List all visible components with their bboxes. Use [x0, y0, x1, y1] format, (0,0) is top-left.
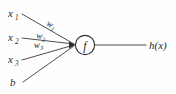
- input-label-x2-subscript: 2: [15, 38, 19, 46]
- input-label-x1: x 1: [7, 7, 19, 22]
- weight-label-w2-subscript: 2: [42, 36, 46, 42]
- neuron-diagram-canvas: f x 1 x 2 x 3 b w 1 w 2 w 3 h(: [0, 0, 176, 94]
- input-label-x1-base: x: [7, 7, 13, 19]
- input-label-bias: b: [10, 76, 16, 88]
- output-label: h(x): [149, 39, 167, 52]
- input-label-x3-subscript: 3: [14, 60, 19, 68]
- edge-x2-to-neuron: [22, 38, 74, 44]
- input-label-x1-subscript: 1: [15, 14, 19, 22]
- edge-x1-to-neuron: [22, 14, 74, 44]
- input-label-x2: x 2: [7, 31, 19, 46]
- weight-label-w1: w 1: [44, 18, 58, 32]
- input-label-x3: x 3: [7, 53, 19, 68]
- edge-x3-to-neuron: [22, 45, 74, 60]
- neuron-diagram: f x 1 x 2 x 3 b w 1 w 2 w 3 h(: [0, 0, 176, 94]
- input-label-bias-base: b: [10, 76, 16, 88]
- weight-label-w3-subscript: 3: [39, 45, 43, 51]
- input-label-x2-base: x: [7, 31, 13, 43]
- input-label-x3-base: x: [7, 53, 13, 65]
- edge-bias-to-neuron: [23, 46, 74, 82]
